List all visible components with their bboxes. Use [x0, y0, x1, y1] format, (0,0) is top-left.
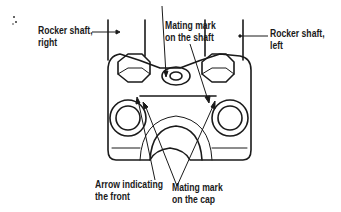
label-line: Mating mark — [172, 181, 223, 193]
label-mating-mark-shaft: Mating mark on the shaft — [165, 19, 216, 43]
label-line: Mating mark — [165, 19, 216, 31]
label-arrow-front: Arrow indicating the front — [95, 178, 163, 202]
label-line: right — [38, 36, 93, 48]
label-line: Arrow indicating — [95, 178, 163, 190]
label-rocker-shaft-right: Rocker shaft, right — [38, 24, 93, 48]
label-line: on the shaft — [165, 31, 216, 43]
label-line: left — [270, 39, 325, 51]
label-rocker-shaft-left: Rocker shaft, left — [270, 27, 325, 51]
label-mating-mark-cap: Mating mark on the cap — [172, 181, 223, 205]
label-line: on the cap — [172, 193, 223, 205]
label-line: the front — [95, 190, 163, 202]
label-line: Rocker shaft, — [38, 24, 93, 36]
label-line: Rocker shaft, — [270, 27, 325, 39]
